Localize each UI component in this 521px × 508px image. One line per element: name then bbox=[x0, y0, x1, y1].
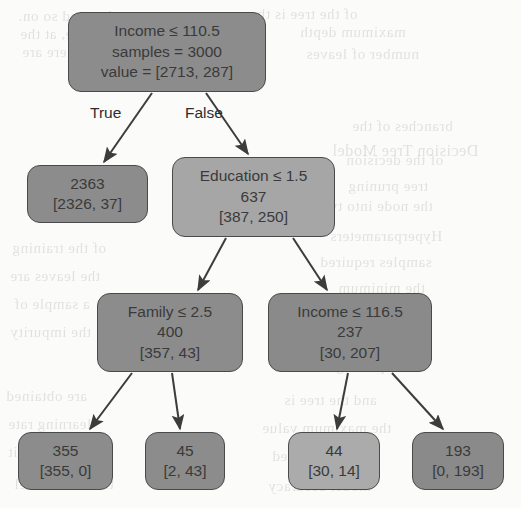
node-text-line: Education ≤ 1.5 bbox=[200, 166, 308, 186]
node-text-line: value = [2713, 287] bbox=[101, 62, 233, 82]
leaf-node-355: 355[355, 0] bbox=[18, 432, 113, 490]
edge-family-to-45 bbox=[172, 373, 180, 429]
node-income-116-5: Income ≤ 116.5237[30, 207] bbox=[268, 293, 432, 372]
node-text-line: 237 bbox=[337, 322, 363, 342]
node-text-line: 637 bbox=[241, 187, 267, 207]
node-text-line: [2326, 37] bbox=[53, 194, 122, 214]
node-text-line: 45 bbox=[176, 441, 193, 461]
node-text-line: [0, 193] bbox=[432, 461, 484, 481]
node-text-line: 193 bbox=[445, 441, 471, 461]
node-text-line: [387, 250] bbox=[219, 207, 288, 227]
node-text-line: Income ≤ 116.5 bbox=[297, 302, 403, 322]
edge-root-to-education bbox=[206, 93, 248, 154]
node-text-line: 400 bbox=[157, 322, 183, 342]
node-text-line: Income ≤ 110.5 bbox=[114, 21, 220, 41]
node-text-line: [30, 14] bbox=[308, 461, 360, 481]
edge-label-false: False bbox=[185, 104, 223, 122]
node-text-line: 355 bbox=[53, 441, 79, 461]
leaf-node-2363: 2363[2326, 37] bbox=[27, 165, 148, 223]
node-text-line: samples = 3000 bbox=[112, 42, 222, 62]
node-text-line: 2363 bbox=[70, 174, 104, 194]
node-text-line: [355, 0] bbox=[40, 461, 92, 481]
node-text-line: [357, 43] bbox=[140, 343, 200, 363]
root-node-income-110: Income ≤ 110.5samples = 3000value = [271… bbox=[68, 12, 266, 92]
edge-income116-to-44 bbox=[337, 373, 348, 429]
edge-family-to-355 bbox=[90, 373, 132, 429]
node-text-line: 44 bbox=[325, 441, 342, 461]
leaf-node-193: 193[0, 193] bbox=[412, 432, 504, 490]
leaf-node-44: 44[30, 14] bbox=[288, 432, 380, 490]
node-text-line: [30, 207] bbox=[320, 343, 380, 363]
leaf-node-45: 45[2, 43] bbox=[145, 432, 225, 490]
edge-label-true: True bbox=[90, 104, 121, 122]
node-education-1-5: Education ≤ 1.5637[387, 250] bbox=[172, 157, 335, 237]
edge-income116-to-193 bbox=[392, 373, 443, 429]
node-text-line: Family ≤ 2.5 bbox=[128, 302, 212, 322]
edge-education-to-family bbox=[198, 238, 226, 290]
node-family-2-5: Family ≤ 2.5400[357, 43] bbox=[97, 293, 243, 372]
edge-education-to-income116 bbox=[293, 238, 327, 290]
node-text-line: [2, 43] bbox=[163, 461, 206, 481]
decision-tree-figure: ve nodes, and so on.of the tree is theth… bbox=[0, 0, 521, 508]
